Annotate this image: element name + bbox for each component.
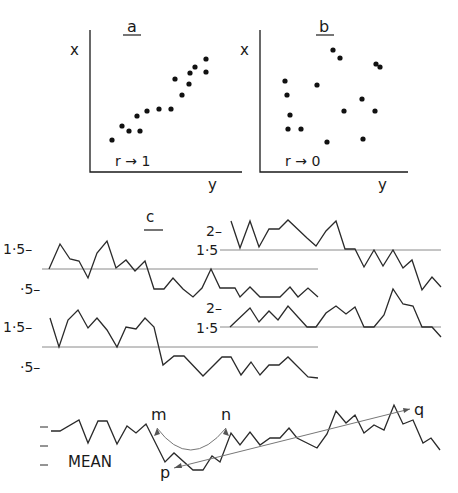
mean-trend-panel: MEAN m n p q [40, 400, 440, 482]
scatter-point [330, 47, 335, 52]
scatter-point [192, 64, 197, 69]
scatter-point [144, 108, 149, 113]
scatter-point [360, 136, 365, 141]
c3-tick-0-5: ·5– [20, 359, 40, 375]
label-m: m [151, 405, 167, 424]
c1-tick-1-5: 1·5– [3, 241, 32, 257]
mean-label: MEAN [68, 453, 112, 471]
scatter-point [186, 81, 191, 86]
scatter-panel-a: a x y r → 1 [70, 17, 242, 194]
scatter-point [287, 112, 292, 117]
scatter-point [134, 113, 139, 118]
c1-tick-0-5: ·5– [20, 281, 40, 297]
arrowhead-n-icon [223, 428, 229, 436]
scatter-point [156, 106, 161, 111]
scatter-point [284, 92, 289, 97]
c4-tick-2: 2– [206, 300, 222, 316]
scatter-point [324, 139, 329, 144]
label-n: n [221, 405, 231, 424]
scatter-point [126, 128, 131, 133]
arc-m-to-n [157, 428, 226, 450]
panel-b-x-axis-label: y [378, 176, 387, 194]
scatter-point [359, 96, 364, 101]
panel-a-points [109, 56, 208, 142]
arrowhead-p-icon [174, 463, 182, 468]
scatter-point [119, 123, 124, 128]
correlation-figure: a x y r → 1 b x y r → 0 c 1·5– ·5– 2– 1·… [0, 0, 458, 493]
scatter-point [168, 106, 173, 111]
c3-tick-1-5: 1·5– [3, 319, 32, 335]
arrowhead-m-icon [154, 428, 160, 436]
scatter-point [337, 55, 342, 60]
c4-tick-1-5: 1·5 [196, 320, 218, 336]
c2-series-line [231, 220, 441, 290]
arrow-p-to-q [174, 409, 410, 468]
scatter-point [203, 69, 208, 74]
panel-a-y-axis-label: x [70, 41, 79, 59]
panel-c-title: c [146, 208, 154, 226]
panel-b-title: b [319, 17, 329, 36]
panel-c-series [42, 220, 441, 378]
label-q: q [414, 400, 424, 419]
scatter-point [298, 126, 303, 131]
panel-a-title: a [127, 17, 137, 36]
scatter-point [282, 78, 287, 83]
panel-b-correlation-label: r → 0 [285, 153, 320, 169]
scatter-point [377, 64, 382, 69]
scatter-point [372, 108, 377, 113]
panel-b-y-axis-label: x [240, 41, 249, 59]
panel-a-correlation-label: r → 1 [115, 153, 150, 169]
panel-a-axes [90, 30, 242, 172]
label-p: p [160, 463, 170, 482]
time-series-panel-c: c 1·5– ·5– 2– 1·5 1·5– ·5– 2– 1·5 [3, 208, 441, 378]
scatter-point [285, 126, 290, 131]
scatter-point [109, 137, 114, 142]
panel-a-x-axis-label: y [208, 176, 217, 194]
scatter-point [179, 92, 184, 97]
scatter-point [137, 128, 142, 133]
c4-series-line [230, 289, 441, 337]
scatter-point [203, 56, 208, 61]
scatter-point [314, 82, 319, 87]
panel-b-points [282, 47, 382, 144]
c2-tick-2: 2– [206, 223, 222, 239]
scatter-point [187, 70, 192, 75]
c2-tick-1-5: 1·5 [196, 242, 218, 258]
scatter-point [341, 108, 346, 113]
scatter-panel-b: b x y r → 0 [240, 17, 408, 194]
scatter-point [172, 76, 177, 81]
